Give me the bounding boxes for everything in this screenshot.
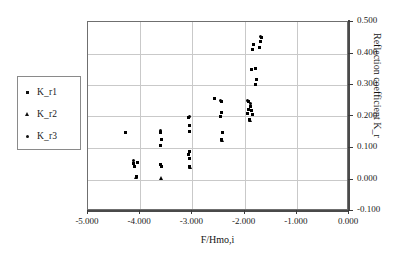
legend-label-k-r1: K_r1 bbox=[37, 87, 57, 97]
data-point-k-r3 bbox=[159, 129, 162, 132]
legend-item-k-r3: K_r3 bbox=[23, 128, 57, 144]
data-point-k-r1 bbox=[246, 112, 249, 115]
y-axis-title: Reflection coefficient K_r bbox=[372, 33, 383, 203]
x-axis-tick-label: 0.000 bbox=[325, 216, 371, 226]
y-axis-tick bbox=[348, 179, 353, 180]
data-point-k-r1 bbox=[254, 67, 257, 70]
square-marker-icon bbox=[23, 87, 33, 97]
y-axis-tick bbox=[348, 53, 353, 54]
data-point-k-r1 bbox=[259, 40, 262, 43]
x-axis-tick bbox=[139, 210, 140, 214]
data-point-k-r1 bbox=[188, 130, 191, 133]
data-point-k-r2 bbox=[134, 175, 138, 179]
y-axis-tick bbox=[348, 115, 353, 116]
gridline-horizontal bbox=[88, 116, 347, 117]
data-point-k-r2 bbox=[248, 118, 252, 122]
data-point-k-r3 bbox=[246, 99, 249, 102]
y-axis-tick bbox=[348, 210, 353, 211]
data-point-k-r1 bbox=[221, 131, 224, 134]
data-point-k-r1 bbox=[188, 157, 191, 160]
legend-item-k-r2: K_r2 bbox=[23, 106, 57, 122]
data-point-k-r1 bbox=[136, 161, 139, 164]
data-point-k-r1 bbox=[220, 111, 223, 114]
data-point-k-r1 bbox=[251, 113, 254, 116]
y-axis-tick bbox=[348, 84, 353, 85]
x-axis-tick-label: -4.000 bbox=[116, 216, 162, 226]
x-axis-tick bbox=[87, 210, 88, 214]
data-point-k-r1 bbox=[159, 144, 162, 147]
x-axis-tick-label: -1.000 bbox=[273, 216, 319, 226]
data-point-k-r1 bbox=[160, 165, 163, 168]
y-axis-tick bbox=[348, 21, 353, 22]
data-point-k-r1 bbox=[124, 131, 127, 134]
gridline-horizontal bbox=[88, 148, 347, 149]
data-point-k-r1 bbox=[252, 43, 255, 46]
x-axis-tick bbox=[191, 210, 192, 214]
x-axis-tick-label: -2.000 bbox=[221, 216, 267, 226]
data-point-k-r1 bbox=[213, 97, 216, 100]
gridline-horizontal bbox=[88, 54, 347, 55]
legend-label-k-r3: K_r3 bbox=[37, 131, 57, 141]
x-axis-tick-label: -3.000 bbox=[168, 216, 214, 226]
triangle-marker-icon bbox=[23, 109, 33, 119]
data-point-k-r1 bbox=[250, 109, 253, 112]
y-axis-tick bbox=[348, 147, 353, 148]
plot-area bbox=[87, 21, 348, 210]
data-point-k-r1 bbox=[255, 78, 258, 81]
data-point-k-r1 bbox=[188, 124, 191, 127]
y-axis-tick-label: -0.100 bbox=[357, 204, 397, 214]
legend-label-k-r2: K_r2 bbox=[37, 109, 57, 119]
data-point-k-r1 bbox=[160, 138, 163, 141]
data-point-k-r2 bbox=[188, 165, 192, 169]
y-axis-tick-label: 0.500 bbox=[357, 15, 397, 25]
gridline-horizontal bbox=[88, 85, 347, 86]
x-axis-tick-label: -5.000 bbox=[64, 216, 110, 226]
legend-item-k-r1: K_r1 bbox=[23, 84, 57, 100]
data-point-k-r1 bbox=[254, 83, 257, 86]
x-axis-title: F/Hmo,i bbox=[87, 234, 348, 245]
data-point-k-r1 bbox=[133, 165, 136, 168]
x-axis-tick bbox=[296, 210, 297, 214]
data-point-k-r1 bbox=[251, 48, 254, 51]
diamond-marker-icon bbox=[23, 131, 33, 141]
scatter-chart-figure: K_r1 K_r2 K_r3 -5.000-4.000-3.000-2.000-… bbox=[0, 0, 420, 262]
chart-legend: K_r1 K_r2 K_r3 bbox=[17, 76, 81, 150]
data-point-k-r2 bbox=[220, 138, 224, 142]
data-point-k-r1 bbox=[249, 105, 252, 108]
data-point-k-r3 bbox=[259, 35, 262, 38]
data-point-k-r1 bbox=[219, 115, 222, 118]
data-point-k-r3 bbox=[219, 99, 222, 102]
x-axis-line bbox=[87, 210, 349, 212]
x-axis-tick bbox=[244, 210, 245, 214]
gridline-horizontal bbox=[88, 180, 347, 181]
data-point-k-r2 bbox=[159, 176, 163, 180]
data-point-k-r3 bbox=[188, 115, 191, 118]
data-point-k-r1 bbox=[258, 46, 261, 49]
